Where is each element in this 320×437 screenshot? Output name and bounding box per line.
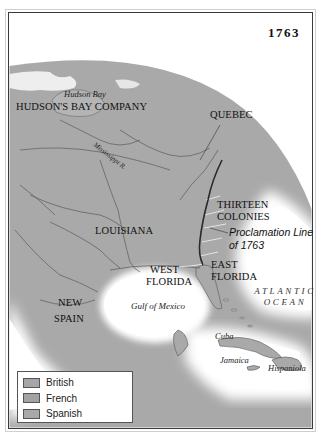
label-thirteen-colonies-2: COLONIES [217, 211, 270, 223]
swatch-spanish [23, 409, 40, 419]
label-quebec: QUEBEC [210, 109, 253, 121]
legend-label-spanish: Spanish [46, 408, 82, 419]
label-atlantic-1: ATLANTIC [252, 286, 318, 297]
legend-label-british: British [46, 377, 74, 388]
label-proclamation-line-1: Proclamation Line [229, 226, 313, 239]
label-atlantic-2: OCEAN [252, 297, 318, 308]
label-east-florida-1: EAST [211, 259, 238, 271]
label-hudson-bay: Hudson Bay [64, 89, 106, 99]
legend-item-spanish: Spanish [23, 406, 127, 422]
label-thirteen-colonies-1: THIRTEEN [217, 199, 269, 211]
map-year: 1763 [268, 25, 300, 41]
label-atlantic-ocean: ATLANTIC OCEAN [252, 286, 318, 308]
label-hispaniola: Hispaniola [268, 363, 306, 373]
legend-label-french: French [46, 393, 77, 404]
swatch-french [23, 393, 40, 403]
swatch-british [23, 378, 40, 388]
label-hudsons-bay-company: HUDSON'S BAY COMPANY [16, 101, 147, 113]
label-jamaica: Jamaica [220, 355, 249, 365]
label-proclamation-line-2: of 1763 [229, 239, 264, 252]
label-new-spain-2: SPAIN [54, 313, 84, 325]
legend-item-french: French [23, 391, 127, 407]
label-west-florida-2: FLORIDA [146, 276, 192, 288]
label-louisiana: LOUISIANA [95, 225, 153, 237]
legend-item-british: British [23, 375, 127, 391]
label-cuba: Cuba [215, 331, 233, 341]
label-east-florida-2: FLORIDA [211, 271, 257, 283]
label-gulf-of-mexico: Gulf of Mexico [131, 301, 185, 311]
label-west-florida-1: WEST [150, 264, 179, 276]
label-new-spain-1: NEW [58, 297, 82, 309]
map-legend: British French Spanish [17, 371, 133, 423]
